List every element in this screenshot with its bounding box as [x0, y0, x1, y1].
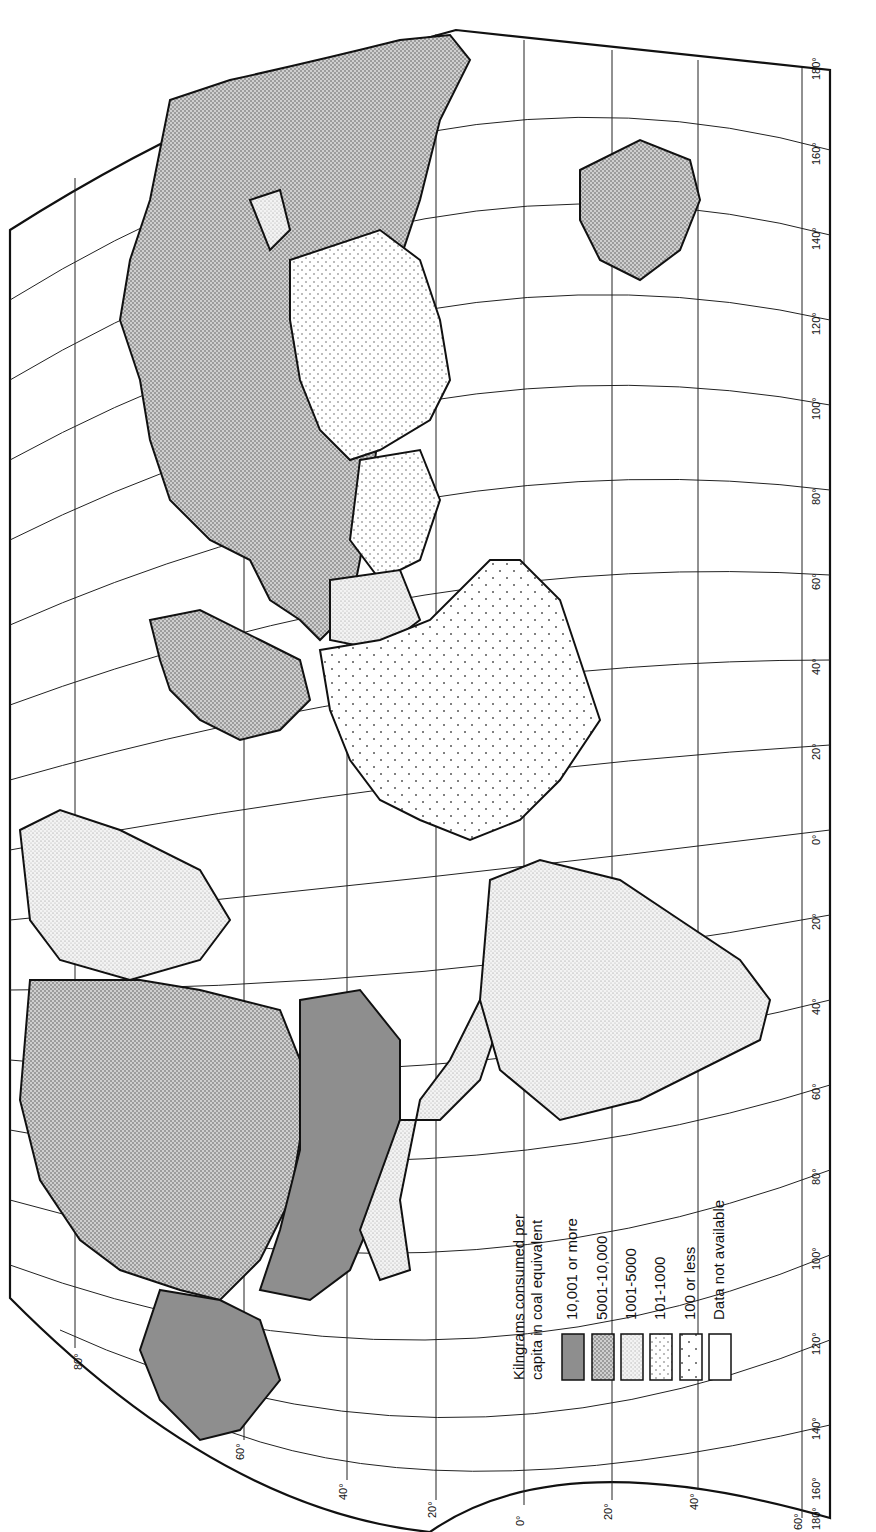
region-greenland	[20, 810, 230, 980]
lon-label: 180°	[810, 57, 822, 80]
lon-label: 160°	[810, 142, 822, 165]
legend-swatch	[680, 1334, 702, 1380]
legend-item-101-1000: 101-1000	[650, 1257, 672, 1380]
lon-label: 100°	[810, 1247, 822, 1270]
legend-swatch	[709, 1334, 731, 1380]
legend-label: 10,001 or more	[563, 1218, 580, 1320]
lon-label: 100°	[810, 397, 822, 420]
region-canada	[20, 980, 300, 1300]
lon-label: 60°	[810, 573, 822, 590]
lon-label: 80°	[810, 488, 822, 505]
lon-label: 40°	[810, 658, 822, 675]
longitude-labels: 180° 160° 140° 120° 100° 80° 60° 40° 20°…	[810, 57, 822, 1530]
lon-label: 20°	[810, 913, 822, 930]
lon-label: 140°	[810, 1417, 822, 1440]
lon-label: 120°	[810, 312, 822, 335]
lon-label: 120°	[810, 1332, 822, 1355]
legend-swatch	[650, 1334, 672, 1380]
legend-label: 101-1000	[651, 1257, 668, 1320]
legend-label: 1001-5000	[622, 1248, 639, 1320]
lon-label: 140°	[810, 227, 822, 250]
legend-label: 100 or less	[681, 1247, 698, 1320]
region-alaska	[140, 1290, 280, 1440]
legend-item-5001-10000: 5001-10,000	[592, 1236, 614, 1380]
legend-item-data-not-available: Data not available	[709, 1200, 731, 1380]
lat-label: 0°	[514, 1515, 526, 1526]
continents	[20, 35, 770, 1440]
lat-label: 40°	[688, 1493, 700, 1510]
lon-label: 80°	[810, 1168, 822, 1185]
region-india	[350, 450, 440, 580]
legend-title-line2: capita in coal equivalent	[528, 1219, 545, 1380]
region-australia	[580, 140, 700, 280]
legend-item-100-or-less: 100 or less	[680, 1247, 702, 1380]
legend-swatch	[592, 1334, 614, 1380]
lon-label: 160°	[810, 1477, 822, 1500]
legend-label: Data not available	[710, 1200, 727, 1320]
lat-label: 40°	[337, 1483, 349, 1500]
legend-item-1001-5000: 1001-5000	[621, 1248, 643, 1380]
lon-label: 20°	[810, 743, 822, 760]
lon-label: 180°	[810, 1507, 822, 1530]
legend-swatch	[562, 1334, 584, 1380]
lat-label: 20°	[426, 1501, 438, 1518]
region-europe	[150, 610, 310, 740]
legend-title-line1: Kilngrams consumed per	[510, 1214, 527, 1380]
legend-item-10001-or-more: 10,001 or more	[562, 1218, 584, 1380]
lat-label: 20°	[602, 1503, 614, 1520]
legend-swatch	[621, 1334, 643, 1380]
lat-label: 60°	[234, 1443, 246, 1460]
lat-label: 80°	[72, 1353, 84, 1370]
region-south-america	[480, 860, 770, 1120]
lat-label: 60°	[792, 1513, 804, 1530]
world-energy-map: 180° 160° 140° 120° 100° 80° 60° 40° 20°…	[0, 0, 876, 1532]
legend-label: 5001-10,000	[593, 1236, 610, 1320]
lon-label: 0°	[810, 834, 822, 845]
map-canvas: 180° 160° 140° 120° 100° 80° 60° 40° 20°…	[0, 0, 876, 1532]
lon-label: 60°	[810, 1083, 822, 1100]
lon-label: 40°	[810, 998, 822, 1015]
